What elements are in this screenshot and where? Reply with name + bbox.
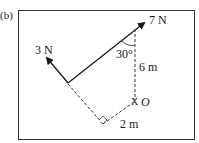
perpendicular-distance-label: 2 m [120, 117, 139, 131]
pivot-label: O [141, 95, 150, 109]
pivot-marker: X [131, 96, 139, 107]
force-7N-label: 7 N [149, 13, 167, 27]
figure-label: (b) [0, 9, 13, 22]
force-3N-arrow [47, 58, 68, 83]
perpendicular-dashed-line-1 [68, 84, 103, 124]
angle-arc [122, 41, 135, 46]
right-angle-marker [99, 116, 107, 124]
force-3N-label: 3 N [35, 43, 53, 57]
force-diagram: (b) X 7 N 3 N 30° 6 m O 2 m [0, 0, 199, 143]
vertical-distance-label: 6 m [139, 60, 158, 74]
angle-label: 30° [116, 47, 133, 61]
